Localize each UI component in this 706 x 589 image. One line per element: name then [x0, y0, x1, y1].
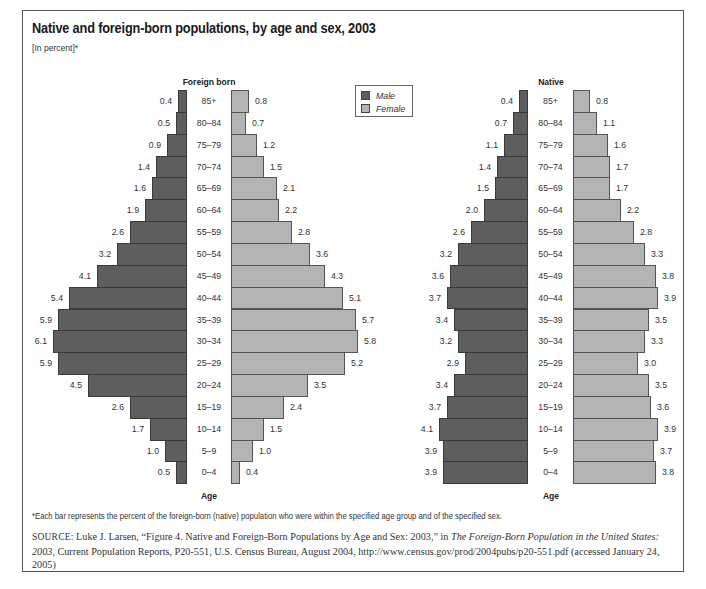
- age-group-label: 20–24: [530, 379, 571, 390]
- female-value-label: 1.5: [270, 423, 298, 434]
- age-group-label: 65–69: [189, 182, 229, 193]
- male-value-label: 2.6: [96, 226, 124, 237]
- male-value-label: 4.1: [405, 423, 433, 434]
- female-value-label: 3.8: [662, 270, 690, 281]
- footnote: *Each bar represents the percent of the …: [32, 511, 502, 521]
- female-value-label: 1.6: [614, 139, 642, 150]
- female-value-label: 3.3: [651, 335, 679, 346]
- male-bar: [447, 287, 528, 310]
- legend-label-female: Female: [376, 103, 405, 114]
- female-value-label: 3.5: [655, 314, 683, 325]
- female-bar: [231, 352, 345, 375]
- female-bar: [231, 265, 325, 288]
- age-group-label: 0–4: [189, 466, 229, 477]
- age-group-label: 40–44: [189, 292, 229, 303]
- male-bar: [458, 243, 528, 266]
- female-bar: [231, 156, 264, 179]
- female-value-label: 3.9: [664, 292, 692, 303]
- female-value-label: 1.1: [603, 117, 631, 128]
- male-value-label: 3.4: [420, 379, 448, 390]
- male-value-label: 0.4: [486, 95, 514, 106]
- female-value-label: 2.8: [298, 226, 326, 237]
- male-bar: [53, 330, 187, 353]
- female-bar: [573, 265, 656, 288]
- female-bar: [573, 396, 651, 419]
- female-bar: [231, 177, 277, 200]
- female-bar: [573, 309, 649, 332]
- male-value-label: 2.6: [96, 401, 124, 412]
- female-bar: [573, 418, 658, 441]
- male-value-label: 3.2: [83, 248, 111, 259]
- female-swatch-icon: [361, 104, 370, 113]
- male-value-label: 0.5: [142, 117, 170, 128]
- age-group-label: 70–74: [189, 161, 229, 172]
- male-bar: [454, 309, 528, 332]
- male-bar: [69, 287, 187, 310]
- female-value-label: 3.6: [657, 401, 685, 412]
- source-citation: SOURCE: Luke J. Larsen, “Figure 4. Nativ…: [32, 530, 677, 572]
- age-group-label: 65–69: [530, 182, 571, 193]
- female-value-label: 3.8: [662, 466, 690, 477]
- age-group-label: 45–49: [189, 270, 229, 281]
- male-value-label: 3.7: [414, 401, 442, 412]
- female-bar: [231, 396, 284, 419]
- male-value-label: 4.5: [55, 379, 83, 390]
- female-bar: [573, 90, 590, 113]
- female-value-label: 2.2: [627, 204, 655, 215]
- male-bar: [439, 418, 528, 441]
- female-bar: [573, 374, 649, 397]
- age-group-label: 55–59: [530, 226, 571, 237]
- legend-label-male: Male: [376, 90, 395, 101]
- male-bar: [176, 112, 187, 135]
- female-value-label: 5.1: [349, 292, 377, 303]
- female-value-label: 3.5: [655, 379, 683, 390]
- female-value-label: 1.2: [263, 139, 291, 150]
- male-bar: [484, 199, 528, 222]
- male-value-label: 2.6: [438, 226, 466, 237]
- female-bar: [231, 440, 253, 463]
- female-bar: [573, 177, 610, 200]
- legend: Male Female: [355, 85, 413, 117]
- female-value-label: 3.3: [651, 248, 679, 259]
- male-bar: [450, 265, 528, 288]
- male-value-label: 3.2: [425, 248, 453, 259]
- female-value-label: 1.7: [616, 182, 644, 193]
- male-bar: [145, 199, 187, 222]
- female-value-label: 5.7: [362, 314, 390, 325]
- male-bar: [471, 221, 528, 244]
- legend-item-male: Male: [361, 90, 397, 101]
- male-bar: [97, 265, 187, 288]
- male-bar: [58, 309, 187, 332]
- male-value-label: 1.5: [462, 182, 490, 193]
- age-group-label: 5–9: [530, 445, 571, 456]
- male-bar: [465, 352, 528, 375]
- female-bar: [231, 287, 343, 310]
- female-value-label: 2.1: [283, 182, 311, 193]
- female-bar: [231, 90, 249, 113]
- female-bar: [573, 461, 656, 484]
- female-value-label: 5.2: [351, 357, 379, 368]
- male-value-label: 1.4: [464, 161, 492, 172]
- female-value-label: 3.7: [660, 445, 688, 456]
- native-chart-title: Native: [515, 76, 587, 87]
- male-value-label: 1.4: [123, 161, 151, 172]
- male-value-label: 2.9: [431, 357, 459, 368]
- female-bar: [573, 440, 654, 463]
- age-group-label: 75–79: [189, 139, 229, 150]
- female-bar: [231, 243, 310, 266]
- male-value-label: 1.0: [131, 445, 159, 456]
- male-value-label: 4.1: [64, 270, 92, 281]
- female-bar: [231, 199, 279, 222]
- male-value-label: 6.1: [20, 335, 48, 346]
- figure-subtitle: [In percent]*: [32, 42, 78, 53]
- male-value-label: 5.9: [24, 357, 52, 368]
- female-bar: [231, 309, 356, 332]
- male-value-label: 0.7: [479, 117, 507, 128]
- male-value-label: 3.6: [416, 270, 444, 281]
- male-bar: [152, 177, 187, 200]
- male-bar: [58, 352, 187, 375]
- female-bar: [231, 374, 308, 397]
- male-value-label: 1.7: [116, 423, 144, 434]
- male-value-label: 3.9: [409, 466, 437, 477]
- female-bar: [231, 330, 358, 353]
